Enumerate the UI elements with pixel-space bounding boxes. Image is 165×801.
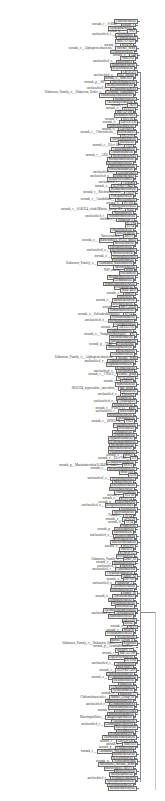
leaf-branch-tick bbox=[136, 92, 138, 93]
leaf-taxon-name: Ktedonobacteraceae bbox=[108, 786, 136, 791]
leaf-branch-tick bbox=[137, 334, 139, 335]
leaf-branch-tick bbox=[137, 115, 139, 116]
leaf-branch-tick bbox=[137, 166, 139, 167]
leaf-branch-tick bbox=[137, 283, 139, 284]
leaf-branch-tick bbox=[136, 613, 138, 614]
leaf-branch-tick bbox=[137, 317, 139, 318]
leaf-branch-tick bbox=[137, 132, 139, 133]
leaf-branch-tick bbox=[136, 75, 138, 76]
leaf-branch-tick bbox=[137, 687, 139, 688]
leaf-branch-tick bbox=[136, 226, 138, 227]
leaf-branch-tick bbox=[136, 25, 138, 26]
leaf-taxon-prefix: Rhodospirillales__ bbox=[80, 716, 105, 719]
leaf-branch-tick bbox=[136, 663, 138, 664]
leaf-branch-tick bbox=[136, 579, 138, 580]
leaf-branch-tick bbox=[137, 31, 139, 32]
leaf-branch-tick bbox=[137, 586, 139, 587]
leaf-branch-tick bbox=[136, 294, 138, 295]
leaf-branch-tick bbox=[137, 384, 139, 385]
leaf-branch-tick bbox=[137, 721, 139, 722]
root-connector-line bbox=[140, 612, 155, 613]
leaf-branch-tick bbox=[137, 502, 139, 503]
leaf-branch-tick bbox=[136, 411, 138, 412]
leaf-branch-tick bbox=[136, 344, 138, 345]
leaf-taxon-prefix: unclassified_c__ bbox=[92, 33, 114, 36]
leaf-branch-tick bbox=[137, 233, 139, 234]
leaf-branch-tick bbox=[136, 277, 138, 278]
leaf-branch-tick bbox=[137, 82, 139, 83]
leaf-branch-tick bbox=[136, 193, 138, 194]
leaf-branch-tick bbox=[136, 563, 138, 564]
leaf-branch-tick bbox=[137, 149, 139, 150]
leaf-taxon-prefix: unclassified_c__ bbox=[92, 662, 114, 665]
leaf-branch-tick bbox=[137, 183, 139, 184]
leaf-taxon-prefix: 0832294_hypersaline_microbial__ bbox=[72, 387, 118, 390]
leaf-branch-tick bbox=[136, 394, 138, 395]
leaf-branch-tick bbox=[137, 48, 139, 49]
leaf-branch-tick bbox=[136, 159, 138, 160]
leaf-taxon-prefix: norank_c__ bbox=[100, 218, 116, 221]
leaf-branch-tick bbox=[136, 495, 138, 496]
leaf-branch-tick bbox=[137, 620, 139, 621]
leaf-taxon-prefix: unclassified_c__ bbox=[81, 723, 103, 726]
leaf-branch-tick bbox=[136, 478, 138, 479]
leaf-branch-tick bbox=[136, 697, 138, 698]
leaf-branch-tick bbox=[136, 512, 138, 513]
leaf-taxon-prefix: unclassified_o__ bbox=[85, 319, 107, 322]
leaf-branch-tick bbox=[138, 21, 140, 22]
leaf-branch-tick bbox=[136, 428, 138, 429]
leaf-branch-tick bbox=[136, 209, 138, 210]
leaf-branch-tick bbox=[136, 378, 138, 379]
leaf-branch-tick bbox=[137, 468, 139, 469]
main-trunk-line bbox=[140, 72, 141, 782]
leaf-branch-tick bbox=[137, 65, 139, 66]
leaf-branch-tick bbox=[137, 603, 139, 604]
leaf-branch-tick bbox=[137, 519, 139, 520]
leaf-taxon-prefix: unclassified_o__ bbox=[82, 504, 104, 507]
leaf-branch-tick bbox=[138, 38, 140, 39]
leaf-branch-tick bbox=[136, 596, 138, 597]
tree-leaf: Ktedonobacteraceae bbox=[108, 787, 139, 790]
leaf-branch-tick bbox=[137, 771, 139, 772]
leaf-branch-tick bbox=[137, 536, 139, 537]
leaf-branch-tick bbox=[137, 216, 139, 217]
leaf-branch-tick bbox=[136, 176, 138, 177]
leaf-branch-tick bbox=[137, 250, 139, 251]
leaf-branch-tick bbox=[136, 630, 138, 631]
leaf-branch-tick bbox=[137, 704, 139, 705]
leaf-branch-tick bbox=[136, 41, 138, 42]
leaf-branch-tick bbox=[137, 368, 139, 369]
leaf-branch-tick bbox=[136, 58, 138, 59]
leaf-branch-tick bbox=[136, 647, 138, 648]
leaf-branch-tick bbox=[137, 737, 139, 738]
leaf-branch-tick bbox=[137, 485, 139, 486]
leaf-taxon-prefix: unclassified_o__ bbox=[88, 477, 110, 480]
leaf-branch-tick bbox=[136, 260, 138, 261]
leaf-branch-tick bbox=[137, 267, 139, 268]
leaf-taxon-prefix: norank_c__ bbox=[91, 467, 107, 470]
leaf-taxon-prefix: unclassified_o__ bbox=[86, 703, 108, 706]
leaf-branch-tick bbox=[136, 310, 138, 311]
leaf-taxon-prefix: unclassified_o__ bbox=[84, 360, 106, 363]
leaf-branch-tick bbox=[137, 754, 139, 755]
leaf-branch-tick bbox=[136, 680, 138, 681]
leaf-branch-tick bbox=[136, 361, 138, 362]
leaf-branch-tick bbox=[138, 55, 140, 56]
leaf-branch-tick bbox=[136, 731, 138, 732]
phylogenetic-tree: Chloroflexaceaenorank_c__S-BQ2__norank_o… bbox=[0, 0, 165, 801]
leaf-taxon-prefix: unclassified_o__ bbox=[87, 249, 109, 252]
leaf-branch-tick bbox=[136, 764, 138, 765]
leaf-branch-tick bbox=[137, 552, 139, 553]
leaf-branch-tick bbox=[136, 445, 138, 446]
leaf-branch-tick bbox=[136, 125, 138, 126]
leaf-taxon-prefix: unclassified_o__ bbox=[90, 534, 112, 537]
leaf-taxon-prefix: norank_c__CPla-3__ bbox=[88, 373, 116, 376]
leaf-branch-tick bbox=[136, 529, 138, 530]
leaf-branch-tick bbox=[137, 99, 139, 100]
leaf-taxon-prefix: norank_o__Alphaproteobacteria__ bbox=[69, 47, 115, 50]
leaf-branch-tick bbox=[136, 462, 138, 463]
leaf-branch-tick bbox=[137, 199, 139, 200]
leaf-taxon-prefix: norank_c__ bbox=[81, 750, 97, 753]
leaf-branch-tick bbox=[136, 747, 138, 748]
leaf-taxon-prefix: norank_c__ bbox=[96, 299, 112, 302]
